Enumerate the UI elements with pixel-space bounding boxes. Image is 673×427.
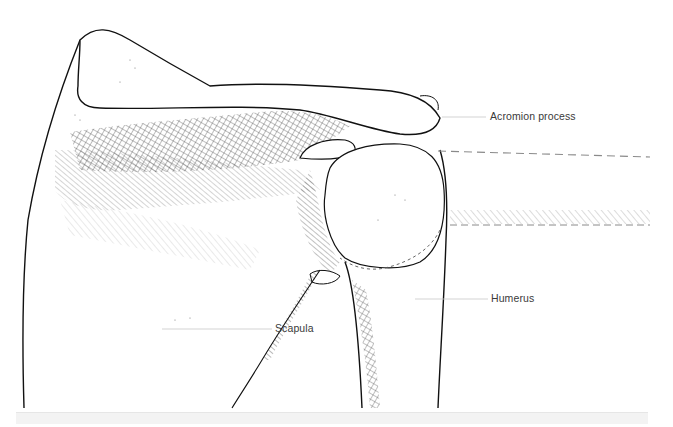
scapula-label: Scapula [275, 322, 314, 334]
acromion-process-label: Acromion process [490, 110, 576, 122]
humerus-label: Humerus [491, 292, 534, 304]
humeral-head [324, 144, 444, 268]
bottom-divider [16, 412, 648, 424]
